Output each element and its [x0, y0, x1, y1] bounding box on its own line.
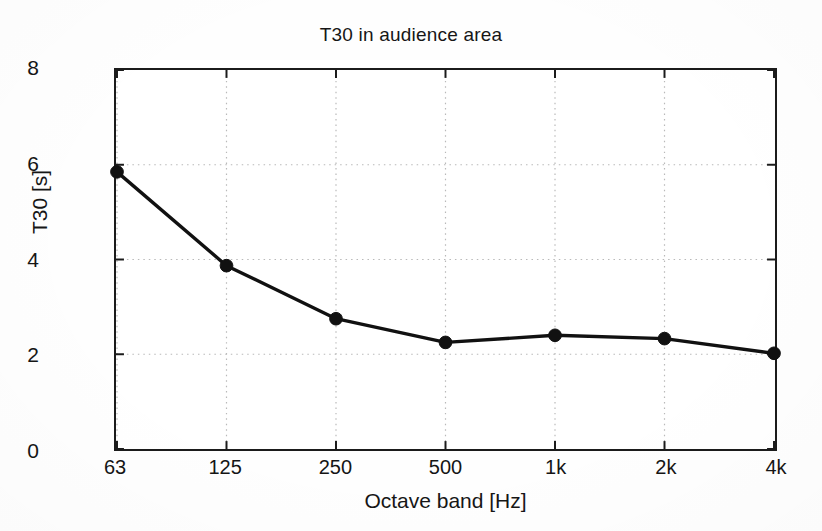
data-point-marker — [220, 259, 233, 272]
plot-area — [114, 68, 777, 451]
data-point-marker — [658, 332, 671, 345]
x-axis-tick-label: 1k — [516, 456, 596, 479]
x-axis-tick-label: 2k — [626, 456, 706, 479]
chart-figure: T30 in audience area 02468 631252505001k… — [0, 0, 822, 531]
x-axis-tick-label: 63 — [75, 456, 155, 479]
x-axis-tick-label: 4k — [736, 456, 816, 479]
data-series-layer — [116, 70, 775, 449]
data-line — [117, 172, 774, 353]
data-point-marker — [111, 166, 124, 179]
data-point-marker — [330, 312, 343, 325]
y-axis-tick-label: 0 — [0, 439, 39, 463]
data-point-marker — [549, 329, 562, 342]
y-axis-tick-label: 8 — [0, 56, 39, 80]
data-point-marker — [768, 347, 781, 360]
y-axis-title: T30 [s] — [28, 102, 52, 302]
y-axis-tick-label: 2 — [0, 343, 39, 367]
chart-title: T30 in audience area — [0, 24, 822, 46]
x-axis-tick-label: 125 — [185, 456, 265, 479]
x-axis-tick-label: 250 — [295, 456, 375, 479]
x-axis-title: Octave band [Hz] — [114, 489, 777, 513]
data-point-marker — [439, 336, 452, 349]
x-axis-tick-label: 500 — [406, 456, 486, 479]
